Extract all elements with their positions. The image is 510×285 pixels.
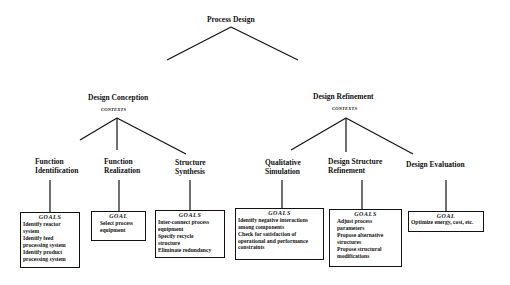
- context-design-structure-refinement: Design Structure Refinement: [328, 158, 382, 175]
- context-qualitative-simulation: Qualitative Simulation: [265, 159, 301, 176]
- context-function-realization: Function Realization: [104, 158, 140, 175]
- context-design-evaluation: Design Evaluation: [406, 161, 465, 170]
- branch-design-refinement: Design Refinement: [313, 93, 374, 102]
- goal-item: Identify reactor system: [23, 221, 77, 234]
- goals-box-function-identification: GOALS Identify reactor system Identify f…: [20, 212, 80, 268]
- goal-item: Select process equipment: [94, 220, 143, 233]
- contexts-label-refinement: CONTEXTS: [332, 106, 357, 111]
- goal-item: Specify recycle structure: [158, 233, 222, 246]
- goal-item: Identify negative interactions among com…: [238, 217, 321, 230]
- goal-item: Check for satisfaction of operational an…: [238, 231, 321, 250]
- goals-box-qualitative-simulation: GOALS Identify negative interactions amo…: [235, 208, 324, 260]
- goal-item: Inter-connect process equipment: [158, 219, 222, 232]
- goal-item: Propose alternative structures: [332, 232, 399, 245]
- goals-box-design-structure-refinement: GOALS Adjust process parameters Propose …: [329, 209, 402, 267]
- goals-box-design-evaluation: GOAL Optimize energy, cost, etc.: [408, 211, 484, 232]
- goal-item: Optimize energy, cost, etc.: [411, 219, 481, 225]
- goal-item: Propose structural modifications: [332, 246, 399, 259]
- goals-box-structure-synthesis: GOALS Inter-connect process equipment Sp…: [155, 210, 225, 258]
- context-function-identification: Function Identification: [35, 158, 78, 175]
- goal-item: Adjust process parameters: [332, 218, 399, 231]
- branch-design-conception: Design Conception: [88, 94, 148, 103]
- goals-header: GOALS: [23, 214, 77, 220]
- goal-item: Identify product processing system: [23, 249, 77, 262]
- goal-item: Eliminate redundancy: [158, 247, 222, 253]
- context-structure-synthesis: Structure Synthesis: [175, 159, 206, 176]
- goals-header: GOALS: [158, 212, 222, 218]
- goals-box-function-realization: GOAL Select process equipment: [91, 211, 146, 241]
- goals-header: GOALS: [238, 210, 321, 216]
- goals-header: GOALS: [332, 211, 399, 217]
- root-node-process-design: Process Design: [207, 16, 255, 25]
- goal-item: Identify feed processing system: [23, 235, 77, 248]
- goals-header: GOAL: [94, 213, 143, 219]
- contexts-label-conception: CONTEXTS: [101, 107, 126, 112]
